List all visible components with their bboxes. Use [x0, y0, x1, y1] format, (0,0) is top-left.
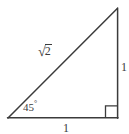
- angle-label: 45°: [23, 100, 37, 113]
- degree-symbol-icon: °: [34, 99, 37, 108]
- angle-value: 45: [23, 101, 34, 113]
- triangle-figure: √2 1 1 45°: [0, 0, 129, 134]
- radicand-value: 2: [45, 44, 52, 58]
- vertical-leg-label: 1: [121, 61, 127, 73]
- hypotenuse-label: √2: [38, 44, 52, 59]
- right-angle-marker-icon: [106, 106, 118, 118]
- triangle-diagram-svg: [0, 0, 129, 134]
- radical-group: √2: [38, 44, 52, 59]
- horizontal-leg-label: 1: [63, 122, 69, 134]
